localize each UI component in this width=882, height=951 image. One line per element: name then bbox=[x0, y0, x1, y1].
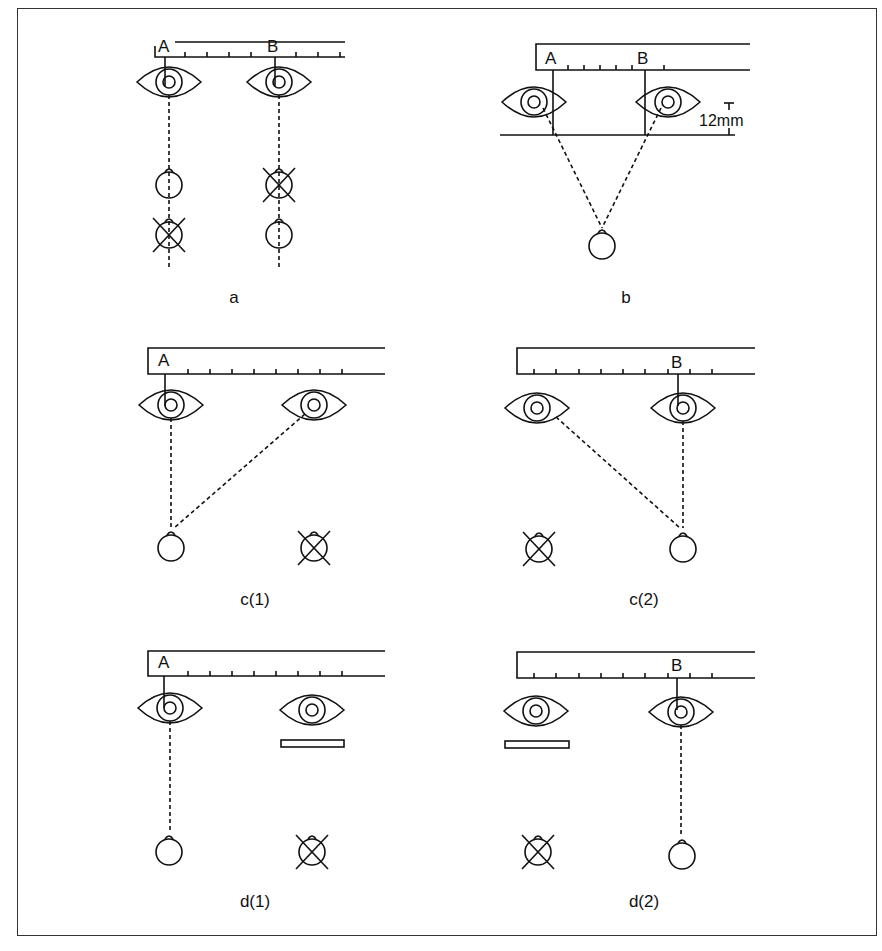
panel-d2: B bbox=[504, 652, 755, 869]
mark-a-label: A bbox=[158, 37, 170, 56]
mark-a-label: A bbox=[158, 351, 170, 370]
mark-b-label: B bbox=[671, 656, 682, 675]
eye-icon bbox=[137, 67, 201, 97]
occluder bbox=[505, 741, 569, 748]
occluder bbox=[281, 740, 344, 747]
eye-icon bbox=[651, 393, 715, 423]
diagram-canvas: A B A B 12mm bbox=[0, 0, 882, 951]
caption-d1: d(1) bbox=[240, 892, 270, 912]
panel-c1: A bbox=[139, 348, 385, 565]
caption-a: a bbox=[229, 288, 238, 308]
mark-a-label: A bbox=[545, 49, 557, 68]
eye-icon bbox=[282, 390, 346, 420]
target-icon bbox=[156, 836, 182, 865]
caption-c1: c(1) bbox=[240, 590, 269, 610]
eye-icon bbox=[139, 390, 203, 420]
eye-icon bbox=[504, 696, 568, 726]
caption-d2: d(2) bbox=[629, 892, 659, 912]
mark-b-label: B bbox=[267, 37, 278, 56]
target-crossed-icon bbox=[523, 532, 555, 566]
distance-annotation: 12mm bbox=[699, 112, 743, 129]
target-icon bbox=[670, 533, 696, 562]
panel-b: A B 12mm bbox=[500, 44, 750, 259]
eye-icon bbox=[505, 393, 569, 423]
caption-b: b bbox=[621, 288, 630, 308]
eye-icon bbox=[247, 67, 311, 97]
panel-d1: A bbox=[138, 651, 385, 869]
mark-b-label: B bbox=[637, 49, 648, 68]
caption-c2: c(2) bbox=[629, 590, 658, 610]
eye-icon bbox=[502, 87, 566, 117]
mark-b-label: B bbox=[671, 353, 682, 372]
panel-a: A B bbox=[137, 37, 345, 270]
eye-icon bbox=[649, 697, 713, 727]
mark-a-label: A bbox=[158, 653, 170, 672]
panel-c2: B bbox=[505, 348, 755, 566]
eye-icon bbox=[280, 695, 344, 725]
target-icon bbox=[158, 532, 184, 561]
target-crossed-icon bbox=[522, 835, 554, 869]
target-crossed-icon bbox=[298, 531, 330, 565]
target-crossed-icon bbox=[296, 835, 328, 869]
target-icon bbox=[589, 230, 615, 259]
eye-icon bbox=[138, 693, 202, 723]
target-icon bbox=[669, 840, 695, 869]
